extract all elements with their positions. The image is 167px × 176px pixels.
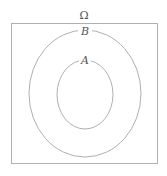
set-b-label: B bbox=[80, 25, 89, 38]
set-a-label: A bbox=[80, 54, 89, 67]
set-a-ellipse bbox=[57, 60, 113, 129]
universe-label: Ω bbox=[79, 9, 88, 22]
venn-diagram: Ω B A bbox=[0, 0, 167, 176]
